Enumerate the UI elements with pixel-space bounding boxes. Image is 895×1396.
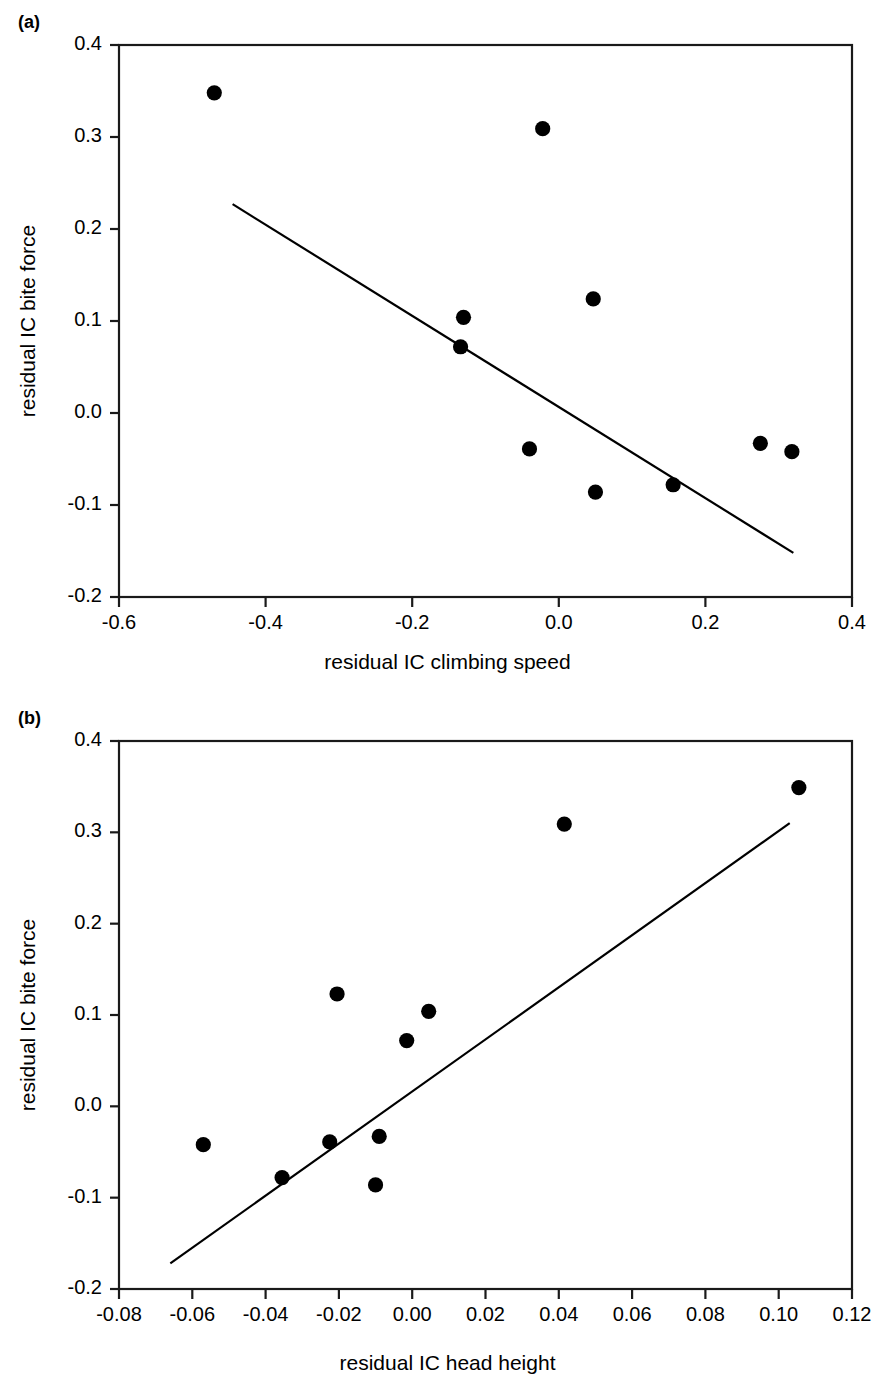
y-tick-label: 0.3	[24, 819, 102, 842]
panel-b: (b) residual IC bite force residual IC h…	[0, 696, 895, 1396]
x-tick-label: 0.4	[807, 611, 895, 634]
data-point	[368, 1177, 383, 1192]
panel-b-x-axis-label: residual IC head height	[0, 1351, 895, 1375]
data-point	[557, 817, 572, 832]
y-tick-label: 0.2	[24, 911, 102, 934]
panel-b-plot	[0, 696, 895, 1396]
y-tick-label: -0.2	[24, 584, 102, 607]
data-point	[456, 310, 471, 325]
y-tick-label: -0.2	[24, 1276, 102, 1299]
regression-line	[170, 823, 789, 1263]
y-tick-label: 0.0	[24, 400, 102, 423]
y-tick-label: 0.1	[24, 308, 102, 331]
data-point	[522, 441, 537, 456]
y-tick-label: 0.2	[24, 216, 102, 239]
data-point	[535, 121, 550, 136]
y-tick-label: 0.0	[24, 1093, 102, 1116]
y-tick-label: 0.4	[24, 728, 102, 751]
data-point	[791, 780, 806, 795]
data-point	[322, 1134, 337, 1149]
panel-a: (a) residual IC bite force residual IC c…	[0, 0, 895, 690]
plot-frame	[119, 741, 852, 1289]
y-tick-label: 0.1	[24, 1002, 102, 1025]
panel-a-plot	[0, 0, 895, 690]
data-point	[421, 1004, 436, 1019]
x-tick-label: -0.6	[74, 611, 164, 634]
panel-a-x-axis-label: residual IC climbing speed	[0, 650, 895, 674]
data-point	[274, 1170, 289, 1185]
x-tick-label: 0.0	[514, 611, 604, 634]
y-tick-label: 0.4	[24, 32, 102, 55]
data-point	[207, 85, 222, 100]
data-point	[453, 339, 468, 354]
regression-line	[233, 204, 794, 553]
data-point	[399, 1033, 414, 1048]
data-point	[329, 986, 344, 1001]
x-tick-label: -0.4	[221, 611, 311, 634]
data-point	[372, 1129, 387, 1144]
data-point	[588, 485, 603, 500]
plot-frame	[119, 45, 852, 597]
y-tick-label: -0.1	[24, 1185, 102, 1208]
x-tick-label: -0.2	[367, 611, 457, 634]
data-point	[784, 444, 799, 459]
x-tick-label: 0.2	[660, 611, 750, 634]
y-tick-label: -0.1	[24, 492, 102, 515]
data-point	[753, 436, 768, 451]
x-tick-label: 0.12	[807, 1303, 895, 1326]
data-point	[666, 477, 681, 492]
y-tick-label: 0.3	[24, 124, 102, 147]
data-point	[196, 1137, 211, 1152]
data-point	[586, 291, 601, 306]
